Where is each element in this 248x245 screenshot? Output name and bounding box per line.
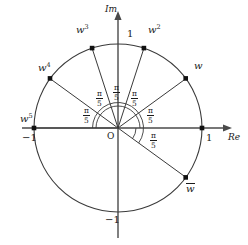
point-label-w: w bbox=[194, 61, 203, 71]
point-w3 bbox=[90, 46, 95, 51]
point-w bbox=[183, 76, 188, 81]
point-w2 bbox=[142, 46, 147, 51]
angle-label-6-numerator: π bbox=[83, 107, 90, 115]
unit-circle-diagram bbox=[0, 0, 248, 245]
point-label-w3-base: w bbox=[76, 24, 85, 35]
ray-to-w2 bbox=[118, 48, 144, 128]
angle-arc-inner bbox=[133, 128, 136, 139]
angle-label-5-denominator: 5 bbox=[96, 100, 103, 108]
angle-label-1: π 5 bbox=[150, 132, 157, 149]
point-label-w2-base: w bbox=[148, 24, 157, 35]
complex-plane-figure: Im Re 1 −1 1 −1 O w w2 w3 w4 w5 w π 5 π … bbox=[0, 0, 248, 245]
point-label-w-base: w bbox=[194, 60, 203, 71]
point-label-w4-base: w bbox=[38, 62, 47, 73]
point-label-w5: w5 bbox=[20, 113, 33, 124]
tick-label-re-negative-one: −1 bbox=[22, 133, 37, 143]
angle-label-4-numerator: π bbox=[113, 84, 120, 92]
angle-label-6: π 5 bbox=[83, 107, 90, 124]
tick-label-im-negative-one: −1 bbox=[105, 215, 120, 225]
angle-label-2-numerator: π bbox=[147, 107, 154, 115]
point-wbar bbox=[183, 175, 188, 180]
angle-label-1-denominator: 5 bbox=[150, 142, 157, 150]
tick-label-im-positive-one: 1 bbox=[127, 29, 133, 39]
angle-label-1-numerator: π bbox=[150, 132, 157, 140]
angle-label-3-numerator: π bbox=[131, 90, 138, 98]
real-axis-arrowhead bbox=[223, 124, 232, 131]
point-label-w5-exponent: 5 bbox=[29, 112, 33, 120]
angle-label-6-denominator: 5 bbox=[83, 117, 90, 125]
point-label-w2-exponent: 2 bbox=[157, 23, 161, 31]
real-axis-label: Re bbox=[228, 133, 240, 142]
point-label-w5-base: w bbox=[20, 113, 29, 124]
point-1 bbox=[200, 126, 205, 131]
axes-group bbox=[22, 11, 232, 238]
imaginary-axis-label: Im bbox=[105, 5, 117, 14]
point-label-wbar-base: w bbox=[186, 183, 195, 195]
tick-label-re-positive-one: 1 bbox=[206, 133, 212, 143]
angle-label-5: π 5 bbox=[96, 90, 103, 107]
angle-label-3-denominator: 5 bbox=[131, 100, 138, 108]
point-label-w2: w2 bbox=[148, 24, 161, 35]
origin-label: O bbox=[107, 132, 114, 141]
point-label-w4: w4 bbox=[38, 62, 51, 73]
point-label-w3-exponent: 3 bbox=[85, 23, 89, 31]
point-label-wbar: w bbox=[186, 183, 195, 195]
angle-label-2: π 5 bbox=[147, 107, 154, 124]
radii-group bbox=[34, 48, 186, 177]
angle-label-3: π 5 bbox=[131, 90, 138, 107]
angle-label-5-numerator: π bbox=[96, 90, 103, 98]
point-w5 bbox=[32, 126, 37, 131]
point-label-w3: w3 bbox=[76, 24, 89, 35]
angle-label-4: π 5 bbox=[113, 84, 120, 101]
angle-label-4-denominator: 5 bbox=[113, 94, 120, 102]
angle-label-2-denominator: 5 bbox=[147, 117, 154, 125]
point-label-w4-exponent: 4 bbox=[47, 61, 51, 69]
point-w4 bbox=[48, 76, 53, 81]
